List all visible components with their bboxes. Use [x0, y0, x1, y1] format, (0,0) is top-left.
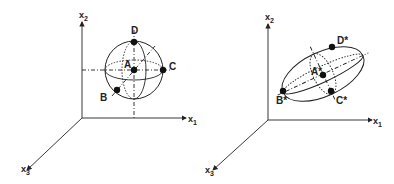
label-a: A — [124, 59, 131, 70]
left-x1-label: x1 — [188, 114, 197, 126]
point-a — [131, 67, 137, 73]
point-d — [131, 39, 137, 45]
label-d: D — [131, 25, 138, 36]
point-c-star — [328, 88, 334, 94]
left-x3-label: x3 — [21, 164, 30, 176]
left-x2-label: x2 — [79, 10, 88, 22]
point-c — [160, 67, 166, 73]
left-x3-axis — [27, 118, 82, 170]
label-c: C — [169, 61, 176, 72]
right-points — [280, 44, 335, 94]
point-b-star — [280, 88, 286, 94]
right-x3-axis — [213, 120, 268, 170]
right-panel — [213, 24, 381, 170]
right-x3-label: x3 — [205, 165, 214, 177]
label-a-star: A* — [311, 66, 322, 77]
diagram: A B C D x2 x1 x3 A* B* C* D* x2 x1 x3 — [0, 0, 394, 184]
point-b — [114, 87, 120, 93]
label-b: B — [100, 92, 107, 103]
point-d-star — [329, 44, 335, 50]
label-d-star: D* — [337, 35, 348, 46]
label-b-star: B* — [276, 95, 287, 106]
label-c-star: C* — [336, 95, 347, 106]
right-x1-label: x1 — [373, 116, 382, 128]
right-x2-label: x2 — [265, 12, 274, 24]
